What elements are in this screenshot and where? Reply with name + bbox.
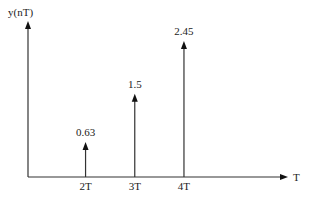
x-axis-arrow-icon [280, 174, 288, 180]
data-label: 0.63 [76, 126, 96, 138]
stem-chart: y(nT) T 0.632T1.53T2.454T [0, 0, 315, 200]
stem-arrow-icon [83, 142, 89, 150]
x-tick-label: 4T [178, 180, 191, 192]
x-axis-label: T [293, 171, 300, 183]
stem-arrow-icon [181, 41, 187, 49]
stems: 0.632T1.53T2.454T [76, 25, 194, 192]
data-label: 2.45 [174, 25, 194, 37]
x-tick-label: 3T [129, 180, 142, 192]
stem-arrow-icon [132, 94, 138, 102]
y-axis-arrow-icon [25, 21, 31, 29]
data-label: 1.5 [128, 78, 142, 90]
x-tick-label: 2T [79, 180, 92, 192]
y-axis-label: y(nT) [8, 6, 33, 19]
axes: y(nT) T [8, 6, 300, 183]
